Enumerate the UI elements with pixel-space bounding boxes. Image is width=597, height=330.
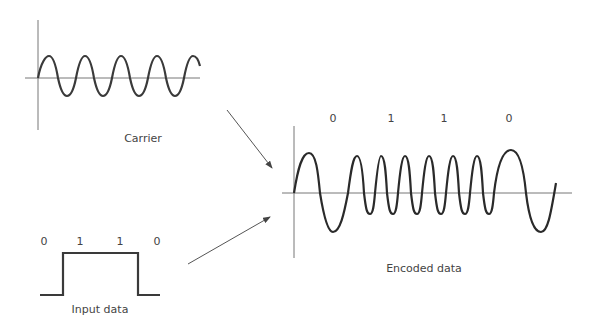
encoded-plot bbox=[282, 126, 572, 258]
encoded-bit-2: 1 bbox=[441, 112, 448, 125]
input-bit-3: 0 bbox=[154, 235, 161, 248]
arrow-carrier-to-encoded bbox=[227, 110, 272, 168]
input-bit-2: 1 bbox=[117, 235, 124, 248]
carrier-label: Carrier bbox=[124, 132, 162, 145]
encoded-bit-3: 0 bbox=[506, 112, 513, 125]
encoded-wave bbox=[294, 150, 556, 232]
input-bit-1: 1 bbox=[77, 235, 84, 248]
carrier-wave bbox=[38, 56, 200, 96]
encoded-bit-1: 1 bbox=[388, 112, 395, 125]
input-label: Input data bbox=[72, 303, 129, 316]
input-square-wave bbox=[40, 253, 160, 295]
carrier-plot bbox=[25, 20, 200, 130]
input-plot bbox=[40, 253, 160, 295]
input-bit-0: 0 bbox=[41, 235, 48, 248]
encoded-label: Encoded data bbox=[386, 262, 462, 275]
encoded-bit-0: 0 bbox=[330, 112, 337, 125]
fsk-diagram bbox=[0, 0, 597, 330]
arrow-input-to-encoded bbox=[188, 217, 270, 264]
